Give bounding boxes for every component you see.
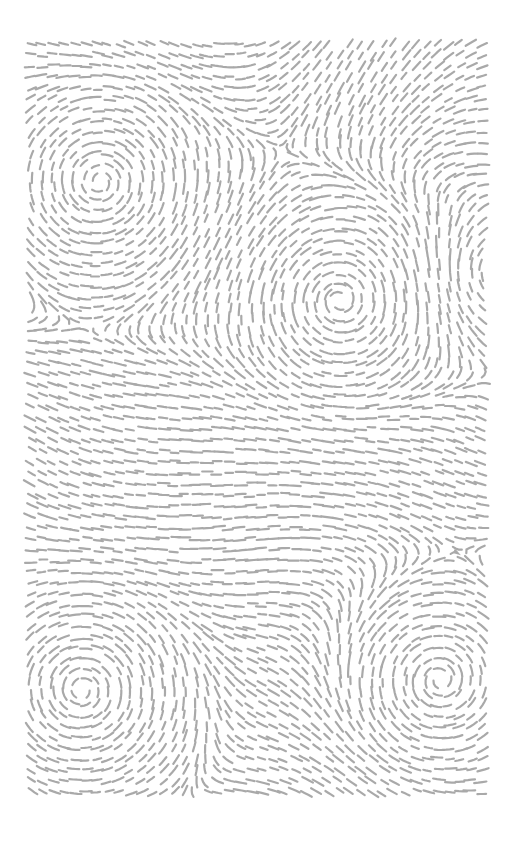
flow-field-artwork: [0, 0, 515, 847]
dash-strokes: [24, 38, 490, 797]
dash-pattern-canvas: [0, 0, 515, 847]
